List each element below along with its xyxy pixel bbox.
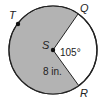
label-t: T bbox=[9, 9, 17, 21]
point-t bbox=[16, 22, 20, 26]
diagram-svg: T Q R S 105° 8 in. bbox=[0, 0, 104, 102]
label-s: S bbox=[42, 39, 50, 51]
label-r: R bbox=[80, 87, 88, 99]
radius-label: 8 in. bbox=[43, 66, 62, 77]
center-point-s bbox=[51, 48, 55, 52]
angle-label: 105° bbox=[60, 47, 81, 58]
label-q: Q bbox=[80, 2, 89, 14]
circle-diagram: T Q R S 105° 8 in. bbox=[0, 0, 104, 102]
